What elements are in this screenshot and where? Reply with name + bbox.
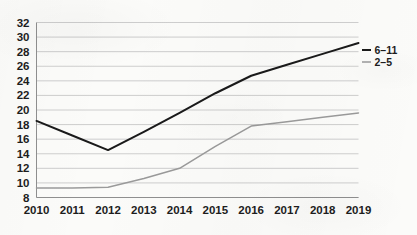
data-series-lines <box>37 43 359 188</box>
x-tick-label-2013: 2013 <box>131 204 157 216</box>
y-tick-label-10: 10 <box>17 177 30 189</box>
series-line-6-11 <box>37 43 359 150</box>
x-axis-tick-labels: 2010201120122013201420152016201720182019 <box>24 204 372 216</box>
x-tick-label-2010: 2010 <box>24 204 50 216</box>
line-chart-figure: 8101214161820222426283032 20102011201220… <box>0 0 417 235</box>
y-tick-label-16: 16 <box>17 133 30 145</box>
gridlines <box>37 23 359 198</box>
y-tick-label-12: 12 <box>17 162 30 174</box>
x-tick-label-2016: 2016 <box>238 204 264 216</box>
legend-label-2-5: 2–5 <box>375 56 393 68</box>
x-tick-label-2015: 2015 <box>203 204 229 216</box>
chart-legend: 6–112–5 <box>362 44 397 68</box>
x-tick-label-2011: 2011 <box>60 204 86 216</box>
legend-label-6-11: 6–11 <box>375 44 398 56</box>
y-tick-label-20: 20 <box>17 104 30 116</box>
x-tick-label-2017: 2017 <box>274 204 300 216</box>
y-tick-label-32: 32 <box>17 17 30 29</box>
y-tick-label-26: 26 <box>17 60 30 72</box>
y-tick-label-8: 8 <box>23 192 30 204</box>
chart-canvas: 8101214161820222426283032 20102011201220… <box>0 0 417 235</box>
y-tick-label-18: 18 <box>17 119 30 131</box>
y-tick-label-24: 24 <box>17 75 30 87</box>
x-tick-label-2012: 2012 <box>95 204 121 216</box>
y-tick-label-30: 30 <box>17 31 30 43</box>
y-tick-label-22: 22 <box>17 89 30 101</box>
x-tick-label-2014: 2014 <box>167 204 193 216</box>
x-tick-label-2019: 2019 <box>346 204 372 216</box>
y-tick-label-28: 28 <box>17 46 30 58</box>
y-axis-tick-labels: 8101214161820222426283032 <box>17 17 30 204</box>
y-tick-label-14: 14 <box>17 148 30 160</box>
x-tick-label-2018: 2018 <box>310 204 336 216</box>
